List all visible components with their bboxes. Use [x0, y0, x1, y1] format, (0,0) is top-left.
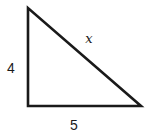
- hypotenuse-label: x: [85, 31, 93, 46]
- triangle-figure: 4 5 x: [0, 0, 150, 135]
- bottom-side-label: 5: [70, 117, 78, 133]
- left-side-label: 4: [7, 60, 15, 76]
- triangle-outline: [28, 8, 141, 106]
